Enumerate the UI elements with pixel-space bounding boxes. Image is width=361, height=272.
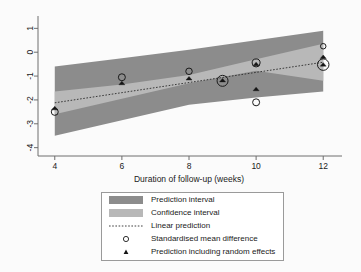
- open-circle-marker: [108, 234, 144, 244]
- legend-item-linear-prediction: Linear prediction: [102, 219, 283, 232]
- legend-item-random-effects-prediction: Prediction including random effects: [102, 245, 283, 258]
- x-tick-label: 12: [318, 161, 328, 171]
- x-axis-title: Duration of follow-up (weeks): [134, 174, 244, 184]
- x-tick-label: 4: [52, 161, 57, 171]
- legend-label-confidence-interval: Confidence interval: [151, 208, 219, 217]
- smd-bubble: [253, 99, 260, 106]
- legend-item-confidence-interval: Confidence interval: [102, 206, 283, 219]
- filled-triangle-marker: [108, 247, 144, 257]
- legend-label-random-effects-prediction: Prediction including random effects: [151, 247, 275, 256]
- legend-label-prediction-interval: Prediction interval: [151, 195, 215, 204]
- y-tick-label: -2: [25, 96, 35, 104]
- legend-label-linear-prediction: Linear prediction: [151, 221, 210, 230]
- x-tick-label: 10: [251, 161, 261, 171]
- y-axis-ticks: 10-1-2-3-4: [25, 26, 38, 152]
- y-tick-label: -1: [25, 72, 35, 80]
- legend-label-standardised-mean-difference: Standardised mean difference: [151, 234, 258, 243]
- y-tick-label: 1: [25, 26, 35, 31]
- dotted-line-swatch: [108, 223, 144, 229]
- y-tick-label: 0: [25, 50, 35, 55]
- meta-regression-bubble-plot: 10-1-2-3-4 4681012 Duration of follow-up…: [0, 0, 361, 272]
- interval-bands: [55, 31, 323, 136]
- x-tick-label: 6: [120, 161, 125, 171]
- y-tick-label: -4: [25, 144, 35, 152]
- band-light-swatch: [108, 209, 144, 217]
- legend-item-prediction-interval: Prediction interval: [102, 193, 283, 206]
- x-axis-ticks: 4681012: [52, 156, 328, 171]
- y-tick-label: -3: [25, 120, 35, 128]
- x-tick-label: 8: [187, 161, 192, 171]
- band-dark-swatch: [108, 196, 144, 204]
- legend-item-standardised-mean-difference: Standardised mean difference: [102, 232, 283, 245]
- chart-legend: Prediction interval Confidence interval …: [101, 192, 284, 261]
